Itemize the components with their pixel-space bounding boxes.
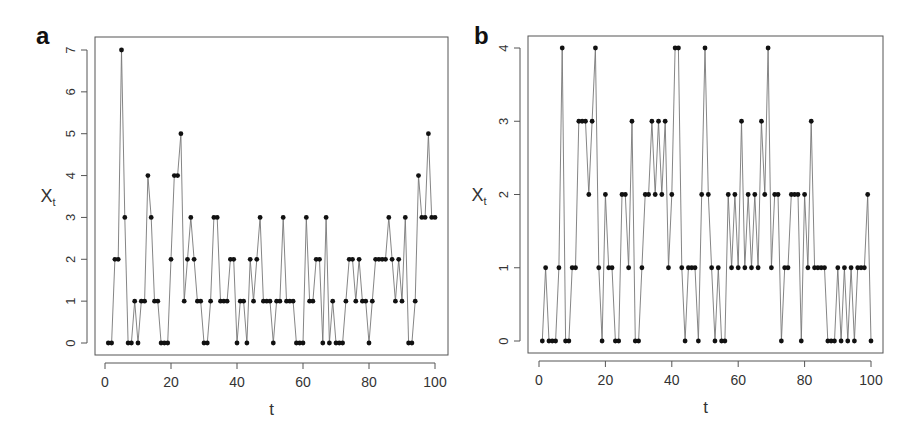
data-point [317,257,322,262]
data-point [759,119,764,124]
y-tick-label: 4 [496,44,511,51]
x-axis: 020406080100 [535,361,883,388]
data-point [593,46,598,51]
data-point [590,119,595,124]
y-tick-label: 5 [63,130,78,137]
data-point [729,265,734,270]
data-point [251,299,256,304]
x-axis-label: t [269,400,274,419]
data-point [809,119,814,124]
data-point [413,299,418,304]
data-point [636,339,641,344]
data-point [845,339,850,344]
data-point [231,257,236,262]
x-tick-label: 80 [797,372,813,388]
data-point [776,192,781,197]
data-point [693,265,698,270]
data-point [353,299,358,304]
data-point [806,265,811,270]
data-point [165,341,170,346]
data-point [281,215,286,220]
data-point [340,341,345,346]
data-point [696,339,701,344]
x-tick-label: 0 [101,374,109,390]
data-point [248,257,253,262]
data-point [683,339,688,344]
data-point [659,192,664,197]
data-point [739,119,744,124]
data-point [179,131,184,136]
data-point [410,341,415,346]
data-point [268,299,273,304]
data-point [350,257,355,262]
data-point [646,192,651,197]
data-point [188,215,193,220]
x-tick-label: 80 [361,374,377,390]
data-point [271,341,276,346]
x-tick-label: 100 [859,372,883,388]
data-point [822,265,827,270]
x-tick-label: 60 [730,372,746,388]
y-axis-label: Xt [40,186,55,208]
data-point [709,265,714,270]
chart-a: 020406080100t01234567Xt [0,0,459,423]
data-point [769,265,774,270]
data-point [426,131,431,136]
data-point [169,257,174,262]
data-point [225,299,230,304]
x-tick-label: 40 [229,374,245,390]
data-point [324,215,329,220]
data-point [291,299,296,304]
data-point [723,339,728,344]
data-point [666,265,671,270]
data-point [749,265,754,270]
y-tick-label: 0 [496,337,511,344]
data-point [713,339,718,344]
data-point [109,341,114,346]
data-point [327,341,332,346]
data-point [640,265,645,270]
data-point [540,339,545,344]
data-point [756,265,761,270]
data-point [669,192,674,197]
data-point [679,265,684,270]
data-point [396,257,401,262]
x-tick-label: 20 [163,374,179,390]
data-point [543,265,548,270]
data-point [311,299,316,304]
data-point [182,299,187,304]
series-markers [540,46,873,344]
data-point [752,192,757,197]
data-point [119,48,124,53]
x-axis-label: t [703,398,708,417]
data-point [862,265,867,270]
panel-b: b 020406080100t01234Xt [459,0,918,423]
data-point [132,299,137,304]
data-point [726,192,731,197]
data-point [400,299,405,304]
data-point [185,257,190,262]
y-tick-label: 1 [496,264,511,271]
data-point [254,257,259,262]
data-point [703,46,708,51]
data-point [149,215,154,220]
plot-frame [95,37,448,355]
data-point [736,265,741,270]
data-point [403,215,408,220]
data-point [560,46,565,51]
x-tick-label: 0 [535,372,543,388]
data-point [852,339,857,344]
data-point [367,341,372,346]
data-point [393,299,398,304]
data-point [205,341,210,346]
data-point [142,299,147,304]
data-point [583,119,588,124]
data-point [586,192,591,197]
data-point [192,257,197,262]
data-point [416,173,421,178]
data-point [653,192,658,197]
data-point [390,257,395,262]
data-point [146,173,151,178]
data-point [799,339,804,344]
data-point [649,119,654,124]
